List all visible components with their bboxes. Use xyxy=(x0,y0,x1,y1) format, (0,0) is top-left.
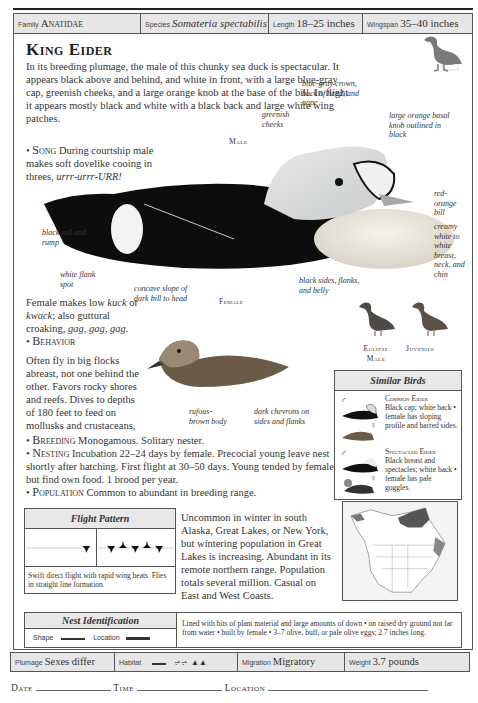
similar-bird-item: ♂ ♀ Spectacled Eider Black breast and sp… xyxy=(335,444,461,497)
migration-value: Migratory xyxy=(273,656,316,667)
plumage-label: Plumage xyxy=(15,659,43,666)
callout-cheeks: greenish cheeks xyxy=(262,110,297,129)
similar-bird-desc: Black breast and spectacles; white back … xyxy=(385,456,458,492)
callout-bill: red-orange bill xyxy=(434,189,464,218)
weight-cell: Weight3.7 pounds xyxy=(345,653,469,671)
svg-text:♀: ♀ xyxy=(370,420,377,430)
similar-bird-item: ♂ ♀ Common Eider Black cap; white back •… xyxy=(335,391,461,444)
flight-pattern-diagrams xyxy=(25,529,175,567)
female-call-text: Female makes low kuck or kwack; also gut… xyxy=(26,296,144,348)
female-call-gag: gag, gag, gag. xyxy=(68,323,128,334)
similar-bird-name: Spectacled Eider xyxy=(385,447,458,456)
female-caption: Female xyxy=(219,297,243,306)
similar-birds-title: Similar Birds xyxy=(335,371,461,391)
spectacled-eider-illustration: ♂ ♀ xyxy=(338,447,382,497)
callout-flank-spot: white flank spot xyxy=(60,270,104,289)
species-cell: SpeciesSomateria spectabilis xyxy=(141,14,269,33)
juvenile-caption: Juvenile xyxy=(406,344,435,353)
behavior-label: Behavior xyxy=(32,334,75,348)
flight-pattern-title: Flight Pattern xyxy=(25,509,175,529)
population-paragraph: • Population Common to abundant in breed… xyxy=(26,486,336,499)
male-caption: Male xyxy=(229,137,247,146)
species-label: Species xyxy=(145,21,170,28)
nest-id-title: Nest Identification xyxy=(25,613,176,629)
callout-tail: black tail and rump xyxy=(42,228,86,247)
time-label: Time xyxy=(113,683,134,693)
juvenile-illustration xyxy=(410,299,450,339)
location-label: Location xyxy=(225,683,266,693)
date-label: Date xyxy=(11,683,33,693)
length-value: 18–25 inches xyxy=(296,17,354,29)
nest-identification-box: Nest Identification Shape Location Lined… xyxy=(24,612,462,648)
length-label: Length xyxy=(273,21,294,28)
life-history-section: • Breeding Monogamous. Solitary nester. … xyxy=(26,434,336,499)
behavior-text-start: Often fly in big flocks abreast, not one… xyxy=(26,354,144,432)
breeding-text: Monogamous. Solitary nester. xyxy=(78,435,204,446)
bird-silhouette-icon xyxy=(420,32,466,76)
eclipse-male-illustration xyxy=(357,299,397,339)
flock-flight-icon xyxy=(97,529,175,567)
habitat-cell: Habitat ⩫⩫ ▲▲ xyxy=(115,653,238,671)
male-eider-illustration xyxy=(34,144,454,274)
species-page: FamilyAnatidae SpeciesSomateria spectabi… xyxy=(13,13,473,650)
behavior-text: Often fly in big flocks abreast, not one… xyxy=(26,354,144,432)
nest-location-icon xyxy=(126,636,150,640)
habitat-marsh-icon: ⩫⩫ xyxy=(174,658,188,667)
flight-pattern-description: Swift direct flight with rapid wing beat… xyxy=(25,567,175,593)
population-continued: Uncommon in winter in south Alaska, Grea… xyxy=(181,511,331,602)
footer-row: PlumageSexes differ Habitat ⩫⩫ ▲▲ Migrat… xyxy=(10,652,470,672)
female-eider-illustration xyxy=(139,329,299,391)
breeding-label: Breeding xyxy=(32,433,75,447)
callout-crown: blue-gray crown, back of head, and nape xyxy=(302,79,364,108)
callout-sides: black sides, flanks, and belly xyxy=(299,276,367,295)
female-call-kwack: kwack xyxy=(26,310,52,321)
weight-label: Weight xyxy=(349,659,371,666)
callout-breast: creamy white to white breast, neck, and … xyxy=(434,222,468,279)
plumage-cell: PlumageSexes differ xyxy=(11,653,115,671)
callout-chevrons: dark chevrons on sides and flanks xyxy=(254,407,324,426)
single-bird-flight-icon xyxy=(25,529,97,567)
svg-text:♂: ♂ xyxy=(340,448,347,458)
species-value: Somateria spectabilis xyxy=(172,17,267,29)
location-field[interactable] xyxy=(268,682,428,691)
wingspan-cell: Wingspan35–40 inches xyxy=(363,14,472,33)
female-call-kuck: kuck xyxy=(107,297,126,308)
top-rule xyxy=(13,8,473,10)
nesting-paragraph: • Nesting Incubation 22–24 days by femal… xyxy=(26,447,336,486)
similar-bird-text: Common Eider Black cap; white back • fem… xyxy=(382,394,458,444)
nest-id-left: Nest Identification Shape Location xyxy=(25,613,177,647)
callout-knob: large orange basal knob outlined in blac… xyxy=(389,111,459,140)
female-text-pre: Female makes low xyxy=(26,297,105,308)
similar-bird-text: Spectacled Eider Black breast and specta… xyxy=(382,447,458,497)
flight-pattern-box: Flight Pattern Swift direct flight with … xyxy=(24,508,176,594)
population-text: Common to abundant in breeding range. xyxy=(87,487,257,498)
nest-location-label: Location xyxy=(93,634,119,641)
nest-shape-row: Shape Location xyxy=(25,629,176,646)
nest-shape-label: Shape xyxy=(33,634,53,641)
habitat-label: Habitat xyxy=(119,659,141,666)
nest-description: Lined with bits of plant material and la… xyxy=(177,613,461,647)
nesting-text: Incubation 22–24 days by female. Precoci… xyxy=(26,448,334,485)
time-field[interactable] xyxy=(137,682,222,691)
wingspan-label: Wingspan xyxy=(367,21,398,28)
family-cell: FamilyAnatidae xyxy=(14,14,141,33)
similar-bird-desc: Black cap; white back • female has slopi… xyxy=(385,403,458,430)
migration-label: Migration xyxy=(242,659,271,666)
length-cell: Length18–25 inches xyxy=(269,14,363,33)
breeding-paragraph: • Breeding Monogamous. Solitary nester. xyxy=(26,434,336,447)
page-title: King Eider xyxy=(26,40,113,60)
plumage-value: Sexes differ xyxy=(45,656,95,667)
migration-cell: MigrationMigratory xyxy=(238,653,345,671)
similar-bird-name: Common Eider xyxy=(385,394,458,403)
header-row: FamilyAnatidae SpeciesSomateria spectabi… xyxy=(14,14,472,34)
nest-shape-icon xyxy=(61,636,85,640)
habitat-water-icon xyxy=(152,663,166,665)
svg-text:♀: ♀ xyxy=(370,473,377,483)
svg-text:♂: ♂ xyxy=(340,395,347,405)
wingspan-value: 35–40 inches xyxy=(400,17,458,29)
date-field[interactable] xyxy=(36,682,111,691)
similar-birds-box: Similar Birds ♂ ♀ Common Eider Black cap… xyxy=(334,370,462,500)
habitat-tundra-icon: ▲▲ xyxy=(191,658,207,667)
female-or: or xyxy=(129,297,138,308)
family-value: Anatidae xyxy=(41,17,84,29)
